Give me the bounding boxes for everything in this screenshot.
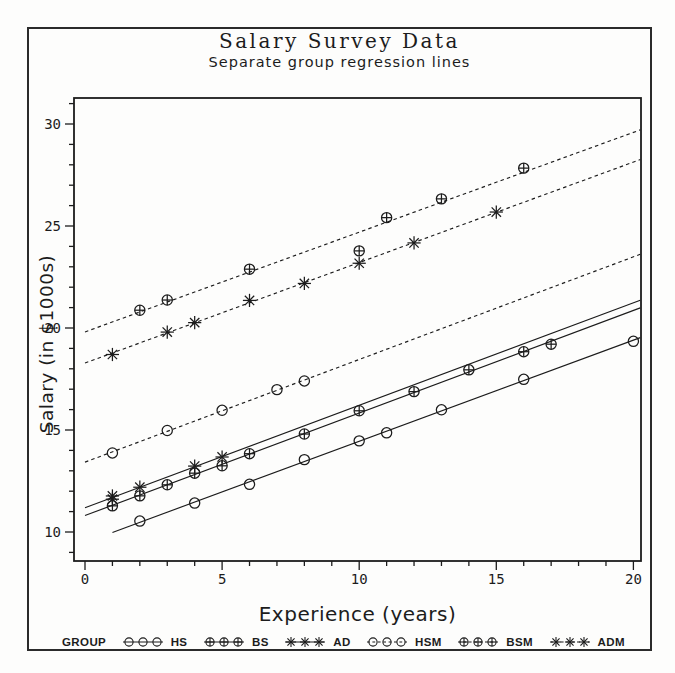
marker-adm: [243, 294, 256, 307]
legend-label: ADM: [598, 636, 625, 648]
series-hsm-markers: [107, 376, 309, 458]
series-adm-markers: [106, 205, 503, 361]
regression-line-bsm: [85, 130, 640, 332]
marker-adm: [298, 277, 311, 290]
regression-line-hsm: [85, 254, 640, 462]
legend-label: BSM: [506, 636, 533, 648]
marker-ad: [106, 489, 119, 502]
legend-label: BS: [252, 636, 269, 648]
legend-title: GROUP: [62, 636, 106, 648]
marker-hsm: [162, 425, 172, 435]
marker-adm: [353, 257, 366, 270]
plot-frame: [74, 98, 641, 561]
marker-bsm: [135, 305, 145, 315]
x-tick-label: 0: [81, 571, 89, 587]
x-axis-label: Experience (years): [74, 602, 641, 626]
marker-bs: [244, 449, 254, 459]
marker-bs: [409, 387, 419, 397]
legend-symbol-adm: [550, 635, 590, 649]
marker-hsm: [272, 385, 282, 395]
marker-bsm: [382, 213, 392, 223]
marker-bs: [299, 429, 309, 439]
marker-bsm: [354, 246, 364, 256]
legend-symbol-hs: [123, 635, 163, 649]
legend-item-adm: ADM: [550, 635, 625, 649]
marker-ad: [215, 450, 228, 463]
marker-hsm: [107, 448, 117, 458]
marker-bs: [354, 406, 364, 416]
marker-bs: [519, 347, 529, 357]
marker-adm: [161, 325, 174, 338]
marker-bsm: [519, 163, 529, 173]
legend-label: HSM: [415, 636, 442, 648]
x-axis-ticks: [85, 561, 633, 570]
legend-item-hsm: HSM: [367, 635, 442, 649]
legend: GROUP HSBSADHSMBSMADM: [62, 632, 625, 652]
x-tick-label: 15: [488, 571, 505, 587]
y-axis-label: Salary (in $1000s): [36, 255, 57, 434]
marker-bs: [464, 365, 474, 375]
y-tick-label: 30: [44, 116, 61, 132]
series-ad-markers: [106, 450, 229, 505]
regression-line-hs: [112, 338, 640, 533]
legend-symbol-bs: [204, 635, 244, 649]
x-tick-labels: 05101520: [81, 571, 642, 587]
legend-symbol-ad: [285, 635, 325, 649]
x-tick-label: 20: [625, 571, 642, 587]
y-tick-label: 10: [44, 524, 61, 540]
legend-symbol-hsm: [367, 635, 407, 649]
legend-label: AD: [333, 636, 350, 648]
marker-adm: [188, 316, 201, 329]
marker-bsm: [244, 264, 254, 274]
y-axis-ticks: [65, 104, 74, 553]
x-tick-label: 5: [218, 571, 226, 587]
marker-hsm: [217, 405, 227, 415]
legend-item-bsm: BSM: [458, 635, 533, 649]
x-tick-label: 10: [351, 571, 368, 587]
marker-bsm: [436, 194, 446, 204]
marker-adm: [106, 348, 119, 361]
legend-item-ad: AD: [285, 635, 350, 649]
y-tick-label: 25: [44, 218, 61, 234]
marker-adm: [407, 236, 420, 249]
marker-ad: [188, 459, 201, 472]
legend-symbol-bsm: [458, 635, 498, 649]
marker-bs: [162, 480, 172, 490]
marker-hs: [299, 455, 309, 465]
marker-ad: [133, 481, 146, 494]
marker-bs: [546, 339, 556, 349]
scatter-plot: 051015201015202530: [0, 0, 675, 673]
marker-hs: [244, 479, 254, 489]
marker-adm: [490, 205, 503, 218]
legend-item-hs: HS: [123, 635, 188, 649]
legend-item-bs: BS: [204, 635, 269, 649]
legend-label: HS: [171, 636, 188, 648]
marker-bsm: [162, 295, 172, 305]
